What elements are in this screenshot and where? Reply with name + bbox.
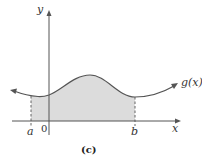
curve-right-arrow-icon — [171, 83, 178, 89]
x-axis-label: x — [172, 122, 179, 135]
origin-label: 0 — [41, 123, 47, 134]
y-axis-label: y — [36, 3, 44, 16]
y-axis-arrow-icon — [47, 10, 52, 16]
function-label: g(x) — [181, 76, 202, 89]
curve-left-arrow-icon — [10, 89, 17, 95]
lower-bound-label: a — [27, 125, 34, 138]
integral-diagram: y x g(x) a 0 b (c) — [0, 0, 202, 159]
shaded-area — [31, 75, 135, 121]
upper-bound-label: b — [131, 125, 138, 138]
figure-caption: (c) — [81, 144, 97, 155]
